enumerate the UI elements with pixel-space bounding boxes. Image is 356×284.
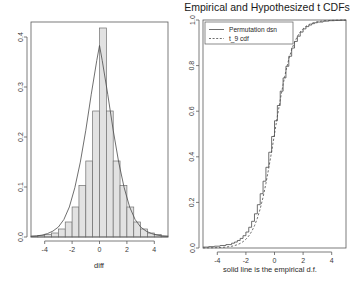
histogram-bar (134, 222, 141, 237)
x-tick-label: 0 (98, 246, 102, 253)
y-tick-label: 0.0 (189, 243, 196, 253)
y-tick-label: 0.4 (17, 32, 24, 42)
y-tick-label: 0.4 (189, 152, 196, 162)
histogram-bar (141, 229, 148, 237)
x-tick-label: 0 (273, 257, 277, 264)
histogram-bar (113, 161, 120, 237)
y-tick-label: 0.2 (189, 197, 196, 207)
histogram-bar (106, 111, 113, 237)
y-tick-label: 0.2 (17, 132, 24, 142)
x-tick-label: -2 (243, 257, 249, 264)
y-axis-ticks: 0.00.10.20.30.4 (17, 32, 28, 242)
y-tick-label: 0.0 (17, 232, 24, 242)
histogram-bars (31, 28, 168, 237)
x-tick-label: 4 (330, 257, 334, 264)
y-tick-label: 0.3 (17, 82, 24, 92)
histogram-bar (58, 229, 65, 237)
histogram-bar (79, 186, 86, 238)
histogram-bar (65, 222, 72, 237)
cdf-plot-area: -4-2024 0.00.20.40.60.81.0 Permutation d… (178, 0, 356, 284)
histogram-bar (86, 161, 93, 237)
x-tick-label: -2 (69, 246, 75, 253)
histogram-panel: -4-2024 0.00.10.20.30.4 diff (0, 0, 178, 284)
legend[interactable]: Permutation dsn t_9 cdf (205, 22, 293, 44)
y-axis-ticks: 0.00.20.40.60.81.0 (189, 15, 200, 253)
x-axis-ticks: -4-2024 (214, 252, 334, 264)
legend-label-t9-cdf: t_9 cdf (229, 35, 249, 43)
x-tick-label: -4 (214, 257, 220, 264)
histogram-bar (100, 28, 107, 237)
x-tick-label: 2 (125, 246, 129, 253)
x-axis-ticks: -4-2024 (42, 241, 157, 253)
figure-canvas: -4-2024 0.00.10.20.30.4 diff Empirical a… (0, 0, 356, 284)
cdf-panel: Empirical and Hypothesized t CDFs -4-202… (178, 0, 356, 284)
y-tick-label: 0.1 (17, 182, 24, 192)
y-tick-label: 1.0 (189, 15, 196, 25)
histogram-bar (127, 207, 134, 237)
histogram-bar (72, 207, 79, 237)
x-axis-label: solid line is the empirical d.f. (223, 265, 317, 274)
permutation-dsn-curve (203, 20, 346, 247)
x-tick-label: -4 (42, 246, 48, 253)
legend-label-permutation-dsn: Permutation dsn (229, 26, 277, 33)
y-tick-label: 0.8 (189, 61, 196, 71)
x-axis-label: diff (94, 261, 105, 270)
histogram-bar (52, 233, 59, 237)
x-tick-label: 4 (152, 246, 156, 253)
x-tick-label: 2 (301, 257, 305, 264)
histogram-bar (93, 111, 100, 237)
histogram-plot-area: -4-2024 0.00.10.20.30.4 diff (0, 0, 178, 284)
y-tick-label: 0.6 (189, 106, 196, 116)
